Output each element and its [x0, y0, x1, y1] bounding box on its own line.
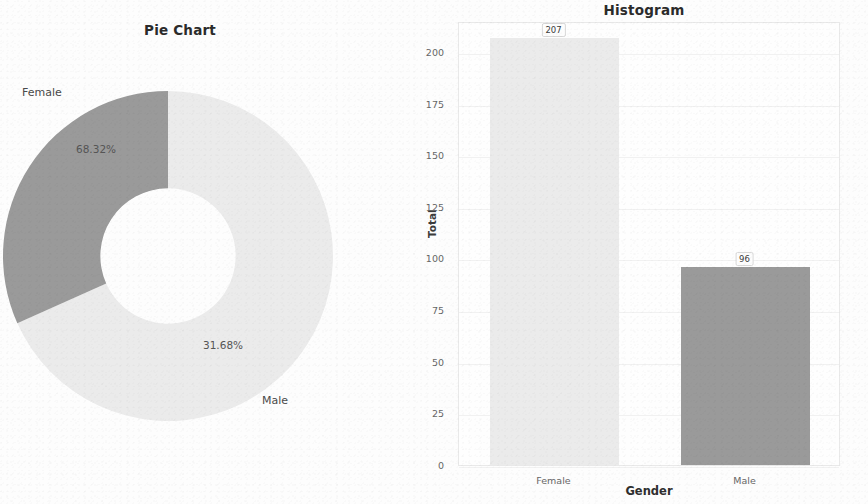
bar-value-label-male: 96 [735, 252, 754, 266]
histogram-title: Histogram [420, 2, 868, 18]
donut-hole [101, 189, 235, 323]
histogram-x-axis-label: Gender [458, 484, 840, 498]
pie-slice-label-female: Female [22, 86, 62, 99]
donut-chart-svg [2, 90, 334, 422]
bar-male[interactable] [681, 267, 811, 465]
pie-chart-title: Pie Chart [0, 22, 360, 38]
y-axis-tick-label: 50 [404, 357, 444, 368]
y-axis-tick-label: 0 [404, 460, 444, 471]
pie-chart-panel: Pie Chart Female Male 68.32% 31.68% [0, 0, 420, 504]
bar-value-label-female: 207 [541, 23, 565, 37]
y-axis-tick-label: 100 [404, 253, 444, 264]
y-axis-tick-label: 150 [404, 150, 444, 161]
y-axis-tick-label: 75 [404, 305, 444, 316]
histogram-panel: Histogram Total 0255075100125150175200 F… [420, 0, 868, 504]
pie-percent-male: 31.68% [203, 339, 243, 351]
histogram-plot-area [458, 22, 840, 466]
pie-percent-female: 68.32% [76, 143, 116, 155]
y-axis-tick-label: 175 [404, 99, 444, 110]
y-axis-tick-label: 200 [404, 47, 444, 58]
pie-slice-label-male: Male [262, 394, 288, 407]
y-axis-tick-label: 125 [404, 202, 444, 213]
bar-female[interactable] [490, 38, 620, 465]
histogram-y-axis-label: Total [426, 209, 438, 238]
y-axis-tick-label: 25 [404, 408, 444, 419]
donut-chart [2, 90, 334, 422]
gridline [459, 467, 839, 468]
